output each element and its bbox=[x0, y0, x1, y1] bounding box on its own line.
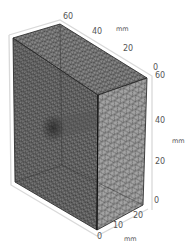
vertical-axis-tick-60: 60 bbox=[155, 72, 165, 80]
bottom-axis-unit: mm bbox=[124, 236, 137, 243]
bottom-axis-tick-10: 10 bbox=[113, 222, 123, 230]
top-axis-tick-40: 40 bbox=[92, 28, 102, 36]
mesh-face-front bbox=[97, 78, 147, 230]
vertical-axis-tick-20: 20 bbox=[155, 158, 165, 166]
bottom-axis-tick-0: 0 bbox=[97, 233, 102, 241]
top-axis-unit: mm bbox=[116, 26, 129, 33]
top-axis-tick-60: 60 bbox=[63, 13, 73, 21]
mesh-geometry bbox=[0, 0, 193, 252]
vertical-axis-tick-40: 40 bbox=[155, 117, 165, 125]
top-axis-tick-20: 20 bbox=[123, 45, 133, 53]
vertical-axis-tick-0: 0 bbox=[154, 197, 159, 205]
mesh-plot-viewport[interactable]: 60 40 20 0 mm 60 40 20 0 mm 0 10 20 mm bbox=[0, 0, 193, 252]
bottom-axis-tick-20: 20 bbox=[133, 212, 143, 220]
vertical-axis-unit: mm bbox=[172, 138, 185, 145]
